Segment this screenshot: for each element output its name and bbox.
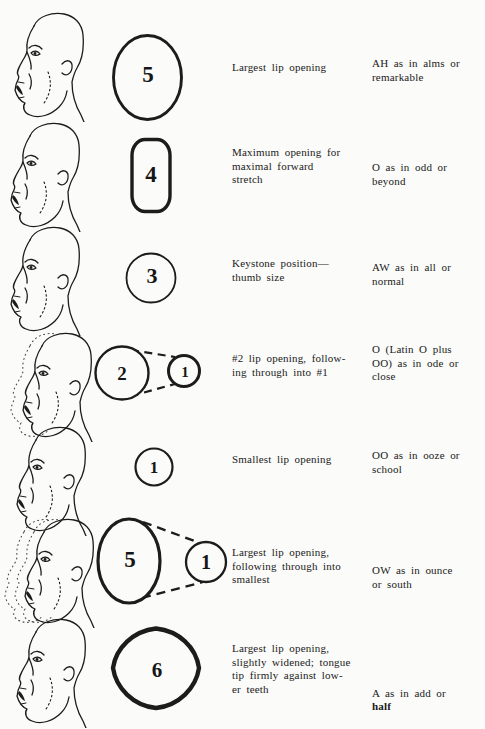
shape-number: 3 (147, 263, 158, 288)
lip-shape-1-circle: 1 (128, 442, 180, 494)
sound-example-regular: A as in add or (372, 687, 446, 699)
face-sketch (0, 224, 95, 336)
sound-example-text: OW as in ounce or south (372, 564, 484, 591)
face-sketch (6, 616, 101, 728)
face-sketch-with-two-ghosts (0, 516, 100, 628)
description-text: Maximum opening for maximal forward stre… (232, 146, 380, 187)
description-text: Largest lip opening (232, 61, 380, 75)
shape-number: 4 (145, 162, 157, 187)
shape-number: 1 (150, 458, 159, 477)
shape-number: 1 (201, 551, 211, 573)
ghost-profile-outline (11, 334, 56, 437)
lip-shape-5-ellipse: 5 (110, 32, 188, 124)
sound-example-text: O as in odd or beyond (372, 161, 484, 188)
shape-number: 5 (142, 62, 154, 87)
shape-number: 6 (152, 658, 163, 682)
description-text: Keystone position— thumb size (232, 257, 380, 284)
lip-shape-5-to-1: 5 1 (94, 514, 234, 608)
page: 5 Largest lip opening AH as in alms or r… (0, 0, 485, 729)
shape-number: 1 (181, 364, 189, 380)
sound-example-text: OO as in ooze or school (372, 449, 484, 476)
lip-shape-4-rounded-rect: 4 (126, 136, 178, 218)
description-text: Largest lip opening, slightly widened; t… (232, 642, 380, 696)
face-sketch (0, 120, 95, 232)
lip-shape-6-rounded-diamond: 6 (110, 624, 206, 714)
shape-number: 5 (124, 547, 136, 572)
sound-example-text: AH as in alms or remarkable (372, 57, 484, 84)
sound-example-text: AW as in all or normal (372, 261, 484, 288)
ghost-profile-outline (5, 520, 50, 623)
face-sketch (4, 10, 99, 122)
description-text: #2 lip opening, follow- ing through into… (232, 352, 380, 379)
sound-example-text: A as in add or half (372, 673, 484, 714)
lip-shape-3-circle: 3 (124, 250, 180, 306)
description-text: Smallest lip opening (232, 453, 380, 467)
shape-number: 2 (117, 363, 127, 384)
description-text: Largest lip opening, following through i… (232, 546, 380, 587)
sound-example-text: O (Latin O plus OO) as in ode or close (372, 343, 484, 384)
ghost-profile-outline (15, 520, 60, 623)
lip-shape-2-to-1: 2 1 (92, 341, 214, 407)
sound-example-bold: half (372, 700, 391, 712)
